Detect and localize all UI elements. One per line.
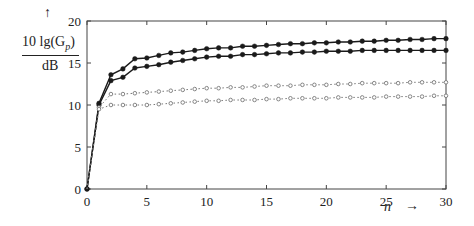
y-axis-label: 10 lg(Gp) [22, 34, 75, 52]
y-axis-arrow-icon: ↑ [44, 5, 51, 21]
open-circle-marker [313, 83, 317, 87]
y-tick-label: 10 [68, 98, 81, 113]
open-circle-marker [337, 82, 341, 86]
open-circle-marker [372, 81, 376, 85]
open-circle-marker [265, 84, 269, 88]
filled-circle-marker [348, 49, 353, 54]
filled-circle-marker [240, 52, 245, 57]
open-circle-marker [420, 81, 424, 85]
open-circle-marker [408, 81, 412, 85]
filled-circle-marker [192, 48, 197, 53]
filled-circle-marker [336, 40, 341, 45]
filled-circle-marker [348, 40, 353, 45]
x-tick-label: 15 [260, 194, 273, 209]
filled-circle-marker [360, 48, 365, 53]
open-circle-marker [193, 87, 197, 91]
open-circle-marker [420, 95, 424, 99]
open-circle-marker [97, 107, 101, 111]
open-circle-marker [217, 99, 221, 103]
open-circle-marker [384, 81, 388, 85]
filled-circle-marker [408, 37, 413, 42]
x-tick-label: 20 [320, 194, 333, 209]
filled-circle-marker [180, 58, 185, 63]
x-tick-label: 0 [84, 194, 91, 209]
open-circle-marker [169, 102, 173, 106]
series-solid-upper [85, 36, 449, 191]
filled-circle-marker [145, 56, 150, 61]
open-circle-marker [277, 97, 281, 101]
filled-circle-marker [324, 41, 329, 46]
filled-circle-marker [121, 67, 126, 72]
series-line [87, 96, 446, 189]
axis-ticks: 05101520253005101520 [68, 14, 453, 209]
open-circle-marker [205, 86, 209, 90]
open-circle-marker [265, 97, 269, 101]
filled-circle-marker [372, 39, 377, 44]
filled-circle-marker [288, 41, 293, 46]
filled-circle-marker [204, 46, 209, 51]
open-circle-marker [396, 95, 400, 99]
open-circle-marker [289, 96, 293, 100]
y-axis-label-close: ) [70, 34, 75, 49]
open-circle-marker [121, 103, 125, 107]
filled-circle-marker [444, 36, 449, 41]
filled-circle-marker [192, 57, 197, 62]
series-dotted-lower [87, 94, 448, 189]
x-axis-arrow-icon: → [405, 198, 419, 214]
open-circle-marker [325, 96, 329, 100]
filled-circle-marker [133, 57, 138, 62]
open-circle-marker [444, 81, 448, 85]
filled-circle-marker [109, 72, 114, 77]
open-circle-marker [348, 82, 352, 86]
open-circle-marker [229, 98, 233, 102]
filled-circle-marker [121, 75, 126, 80]
filled-circle-marker [133, 66, 138, 71]
open-circle-marker [301, 83, 305, 87]
filled-circle-marker [300, 50, 305, 55]
y-tick-label: 15 [68, 56, 81, 71]
open-circle-marker [205, 99, 209, 103]
filled-circle-marker [204, 55, 209, 60]
filled-circle-marker [157, 53, 162, 58]
filled-circle-marker [384, 48, 389, 53]
filled-circle-marker [324, 49, 329, 54]
open-circle-marker [337, 96, 341, 100]
series-solid-lower [85, 48, 449, 191]
filled-circle-marker [216, 54, 221, 59]
filled-circle-marker [384, 38, 389, 43]
x-tick-label: 5 [144, 194, 151, 209]
filled-circle-marker [312, 41, 317, 46]
filled-circle-marker [336, 49, 341, 54]
series-line [87, 39, 446, 189]
open-circle-marker [432, 94, 436, 98]
open-circle-marker [408, 95, 412, 99]
filled-circle-marker [252, 52, 257, 57]
filled-circle-marker [228, 46, 233, 51]
filled-circle-marker [396, 48, 401, 53]
open-circle-marker [372, 96, 376, 100]
filled-circle-marker [168, 51, 173, 56]
open-circle-marker [109, 103, 113, 107]
filled-circle-marker [264, 43, 269, 48]
y-tick-label: 0 [75, 182, 82, 197]
open-circle-marker [169, 89, 173, 93]
open-circle-marker [301, 96, 305, 100]
open-circle-marker [121, 92, 125, 96]
filled-circle-marker [420, 48, 425, 53]
open-circle-marker [253, 98, 257, 102]
open-circle-marker [109, 92, 113, 96]
y-axis-unit: dB [42, 58, 58, 74]
open-circle-marker [181, 88, 185, 92]
open-circle-marker [217, 86, 221, 90]
filled-circle-marker [396, 38, 401, 43]
open-circle-marker [277, 84, 281, 88]
filled-circle-marker [276, 51, 281, 56]
open-circle-marker [253, 85, 257, 89]
open-circle-marker [432, 81, 436, 85]
filled-circle-marker [145, 64, 150, 69]
open-circle-marker [348, 96, 352, 100]
open-circle-marker [133, 103, 137, 107]
filled-circle-marker [312, 50, 317, 55]
filled-circle-marker [444, 48, 449, 53]
open-circle-marker [181, 101, 185, 105]
